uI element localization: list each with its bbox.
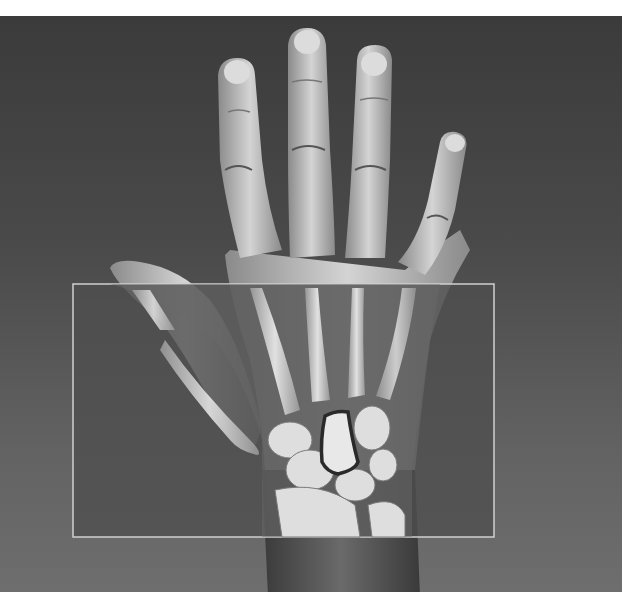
hand-xray-photo [0,16,622,592]
hand-illustration [0,16,622,592]
xray-overlay [73,284,494,537]
